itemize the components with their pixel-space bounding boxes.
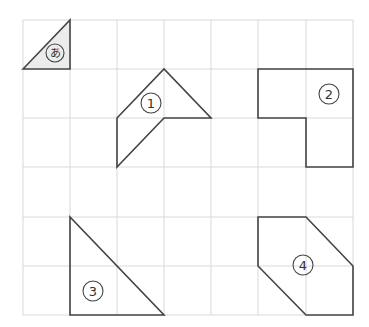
label-4: 4 xyxy=(299,258,307,273)
label-2: 2 xyxy=(325,87,333,102)
label-1: 1 xyxy=(147,96,155,111)
grid-diagram: あ 1 2 3 4 xyxy=(0,0,369,327)
label-a: あ xyxy=(50,47,61,60)
shape-a: あ xyxy=(23,20,70,69)
label-3: 3 xyxy=(89,284,97,299)
triangle-shape-a xyxy=(23,20,70,69)
